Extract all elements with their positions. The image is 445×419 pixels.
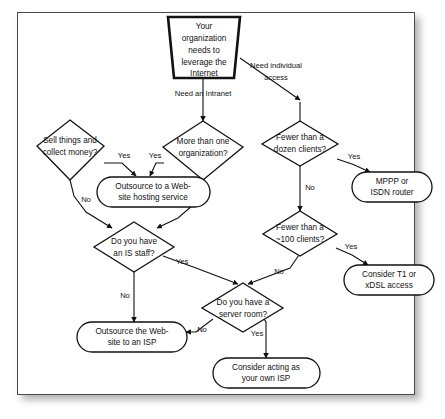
figure-frame: [17, 12, 415, 395]
